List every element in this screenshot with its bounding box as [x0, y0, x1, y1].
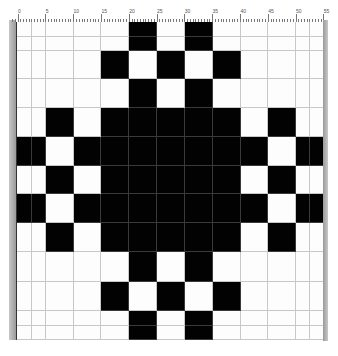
- grid-cell-r10-c8[interactable]: [213, 282, 241, 311]
- grid-cell-r8-c2[interactable]: [46, 223, 74, 252]
- grid-cell-r6-c2[interactable]: [46, 166, 74, 194]
- grid-cell-r7-c4[interactable]: [101, 194, 129, 223]
- grid-cell-r9-c12[interactable]: [310, 252, 324, 282]
- grid-cell-r3-c4[interactable]: [101, 79, 129, 108]
- grid-cell-r0-c9[interactable]: [241, 22, 268, 37]
- grid-cell-r10-c6[interactable]: [157, 282, 185, 311]
- grid-cell-r3-c0[interactable]: [17, 79, 32, 108]
- grid-cell-r9-c8[interactable]: [213, 252, 241, 282]
- grid-cell-r2-c8[interactable]: [213, 51, 241, 79]
- grid-cell-r2-c3[interactable]: [74, 51, 101, 79]
- grid-cell-r2-c6[interactable]: [157, 51, 185, 79]
- grid-cell-r11-c9[interactable]: [241, 311, 268, 326]
- grid-cell-r9-c9[interactable]: [241, 252, 268, 282]
- grid-cell-r12-c7[interactable]: [185, 326, 213, 340]
- grid-cell-r11-c4[interactable]: [101, 311, 129, 326]
- grid-cell-r1-c11[interactable]: [296, 37, 310, 51]
- pixel-grid[interactable]: [16, 22, 323, 340]
- grid-cell-r6-c10[interactable]: [268, 166, 296, 194]
- grid-cell-r12-c0[interactable]: [17, 326, 32, 340]
- grid-cell-r6-c11[interactable]: [296, 166, 310, 194]
- grid-cell-r2-c4[interactable]: [101, 51, 129, 79]
- grid-cell-r10-c5[interactable]: [129, 282, 157, 311]
- grid-cell-r3-c5[interactable]: [129, 79, 157, 108]
- grid-cell-r7-c10[interactable]: [268, 194, 296, 223]
- grid-cell-r2-c5[interactable]: [129, 51, 157, 79]
- grid-cell-r1-c0[interactable]: [17, 37, 32, 51]
- grid-cell-r12-c12[interactable]: [310, 326, 324, 340]
- grid-cell-r0-c2[interactable]: [46, 22, 74, 37]
- grid-cell-r7-c0[interactable]: [17, 194, 32, 223]
- grid-cell-r2-c1[interactable]: [32, 51, 46, 79]
- grid-cell-r12-c1[interactable]: [32, 326, 46, 340]
- grid-cell-r0-c6[interactable]: [157, 22, 185, 37]
- grid-cell-r1-c8[interactable]: [213, 37, 241, 51]
- grid-cell-r9-c5[interactable]: [129, 252, 157, 282]
- grid-cell-r10-c7[interactable]: [185, 282, 213, 311]
- grid-cell-r7-c2[interactable]: [46, 194, 74, 223]
- grid-cell-r1-c4[interactable]: [101, 37, 129, 51]
- grid-cell-r4-c11[interactable]: [296, 108, 310, 137]
- grid-cell-r8-c9[interactable]: [241, 223, 268, 252]
- grid-cell-r10-c10[interactable]: [268, 282, 296, 311]
- grid-cell-r0-c11[interactable]: [296, 22, 310, 37]
- grid-cell-r7-c8[interactable]: [213, 194, 241, 223]
- grid-cell-r6-c4[interactable]: [101, 166, 129, 194]
- grid-cell-r3-c7[interactable]: [185, 79, 213, 108]
- grid-cell-r11-c11[interactable]: [296, 311, 310, 326]
- grid-cell-r11-c2[interactable]: [46, 311, 74, 326]
- grid-cell-r9-c0[interactable]: [17, 252, 32, 282]
- grid-cell-r12-c9[interactable]: [241, 326, 268, 340]
- grid-cell-r7-c12[interactable]: [310, 194, 324, 223]
- grid-cell-r2-c2[interactable]: [46, 51, 74, 79]
- grid-cell-r4-c1[interactable]: [32, 108, 46, 137]
- grid-cell-r5-c11[interactable]: [296, 137, 310, 166]
- grid-cell-r10-c4[interactable]: [101, 282, 129, 311]
- grid-cell-r0-c1[interactable]: [32, 22, 46, 37]
- grid-cell-r10-c12[interactable]: [310, 282, 324, 311]
- grid-cell-r1-c2[interactable]: [46, 37, 74, 51]
- grid-cell-r4-c12[interactable]: [310, 108, 324, 137]
- grid-cell-r3-c6[interactable]: [157, 79, 185, 108]
- grid-cell-r5-c1[interactable]: [32, 137, 46, 166]
- grid-cell-r2-c0[interactable]: [17, 51, 32, 79]
- grid-cell-r0-c7[interactable]: [185, 22, 213, 37]
- grid-cell-r1-c12[interactable]: [310, 37, 324, 51]
- grid-cell-r4-c3[interactable]: [74, 108, 101, 137]
- grid-cell-r10-c3[interactable]: [74, 282, 101, 311]
- grid-cell-r7-c3[interactable]: [74, 194, 101, 223]
- grid-cell-r7-c9[interactable]: [241, 194, 268, 223]
- grid-cell-r10-c0[interactable]: [17, 282, 32, 311]
- grid-cell-r0-c10[interactable]: [268, 22, 296, 37]
- grid-cell-r11-c12[interactable]: [310, 311, 324, 326]
- grid-cell-r9-c2[interactable]: [46, 252, 74, 282]
- grid-cell-r7-c7[interactable]: [185, 194, 213, 223]
- grid-cell-r3-c9[interactable]: [241, 79, 268, 108]
- grid-cell-r1-c10[interactable]: [268, 37, 296, 51]
- grid-cell-r9-c1[interactable]: [32, 252, 46, 282]
- grid-cell-r5-c0[interactable]: [17, 137, 32, 166]
- grid-cell-r11-c6[interactable]: [157, 311, 185, 326]
- grid-cell-r6-c3[interactable]: [74, 166, 101, 194]
- grid-cell-r0-c8[interactable]: [213, 22, 241, 37]
- grid-cell-r7-c5[interactable]: [129, 194, 157, 223]
- grid-cell-r8-c10[interactable]: [268, 223, 296, 252]
- grid-cell-r3-c3[interactable]: [74, 79, 101, 108]
- grid-cell-r12-c8[interactable]: [213, 326, 241, 340]
- grid-cell-r1-c6[interactable]: [157, 37, 185, 51]
- grid-cell-r8-c8[interactable]: [213, 223, 241, 252]
- grid-cell-r2-c12[interactable]: [310, 51, 324, 79]
- grid-cell-r12-c5[interactable]: [129, 326, 157, 340]
- grid-cell-r4-c7[interactable]: [185, 108, 213, 137]
- grid-cell-r11-c1[interactable]: [32, 311, 46, 326]
- grid-cell-r6-c6[interactable]: [157, 166, 185, 194]
- grid-cell-r12-c3[interactable]: [74, 326, 101, 340]
- grid-cell-r11-c0[interactable]: [17, 311, 32, 326]
- grid-cell-r11-c3[interactable]: [74, 311, 101, 326]
- grid-cell-r2-c11[interactable]: [296, 51, 310, 79]
- grid-cell-r8-c0[interactable]: [17, 223, 32, 252]
- grid-cell-r10-c1[interactable]: [32, 282, 46, 311]
- grid-cell-r8-c11[interactable]: [296, 223, 310, 252]
- grid-cell-r4-c2[interactable]: [46, 108, 74, 137]
- grid-cell-r12-c10[interactable]: [268, 326, 296, 340]
